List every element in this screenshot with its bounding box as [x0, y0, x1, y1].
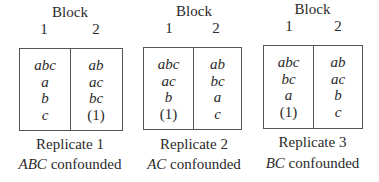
treatment: (1) — [264, 104, 313, 121]
block-number-1: 1 — [34, 21, 54, 38]
block-number-1: 1 — [159, 20, 179, 37]
treatment: b — [144, 89, 193, 106]
block-number-2: 2 — [86, 21, 106, 38]
treatment: b — [20, 90, 70, 107]
block-1-treatments: abc ac b (1) — [144, 56, 193, 122]
treatment: ab — [71, 57, 121, 74]
treatment: (1) — [144, 106, 193, 123]
confounded-effect: AC — [147, 156, 166, 172]
treatment: (1) — [71, 107, 121, 124]
treatment: c — [20, 107, 70, 124]
confounded-suffix: confounded — [47, 156, 122, 172]
confounded-suffix: confounded — [166, 156, 241, 172]
block-1-treatments: abc a b c — [20, 57, 70, 123]
treatment: a — [20, 74, 70, 91]
block-number-2: 2 — [328, 18, 348, 35]
treatment: a — [264, 87, 313, 104]
treatment: c — [194, 106, 241, 123]
treatment: ac — [71, 74, 121, 91]
treatment: ab — [314, 54, 362, 71]
block-table: abc ac b (1) ab bc a c — [143, 47, 242, 130]
block-number-1: 1 — [279, 18, 299, 35]
replicate-1: Block 1 2 abc a b c ab ac bc (1) Replica… — [0, 0, 140, 182]
block-number-2: 2 — [206, 20, 226, 37]
treatment: ac — [144, 73, 193, 90]
treatment: bc — [264, 71, 313, 88]
block-heading: Block — [244, 1, 379, 18]
confounded-effect: BC — [266, 155, 285, 171]
confounded-label: BC confounded — [244, 155, 379, 172]
treatment: a — [194, 89, 241, 106]
treatment: abc — [20, 57, 70, 74]
treatment: bc — [194, 73, 241, 90]
replicate-label: Replicate 3 — [244, 134, 379, 151]
treatment: c — [314, 104, 362, 121]
block-heading: Block — [0, 4, 140, 21]
block-heading: Block — [124, 3, 264, 20]
confounded-effect: ABC — [19, 156, 47, 172]
block-table: abc bc a (1) ab ac b c — [263, 45, 363, 129]
block-2-treatments: ab bc a c — [194, 56, 241, 122]
treatment: ac — [314, 71, 362, 88]
block-2-treatments: ab ac b c — [314, 54, 362, 120]
replicate-label: Replicate 1 — [0, 136, 140, 153]
confounded-suffix: confounded — [285, 155, 360, 171]
confounded-label: ABC confounded — [0, 156, 140, 173]
replicate-2: Block 1 2 abc ac b (1) ab bc a c Replica… — [124, 0, 264, 182]
replicate-3: Block 1 2 abc bc a (1) ab ac b c Replica… — [244, 0, 379, 182]
confounded-label: AC confounded — [124, 156, 264, 173]
treatment: bc — [71, 90, 121, 107]
block-table: abc a b c ab ac bc (1) — [19, 48, 123, 131]
treatment: abc — [264, 54, 313, 71]
block-1-treatments: abc bc a (1) — [264, 54, 313, 120]
block-2-treatments: ab ac bc (1) — [71, 57, 121, 123]
replicate-label: Replicate 2 — [124, 136, 264, 153]
treatment: ab — [194, 56, 241, 73]
treatment: abc — [144, 56, 193, 73]
treatment: b — [314, 87, 362, 104]
